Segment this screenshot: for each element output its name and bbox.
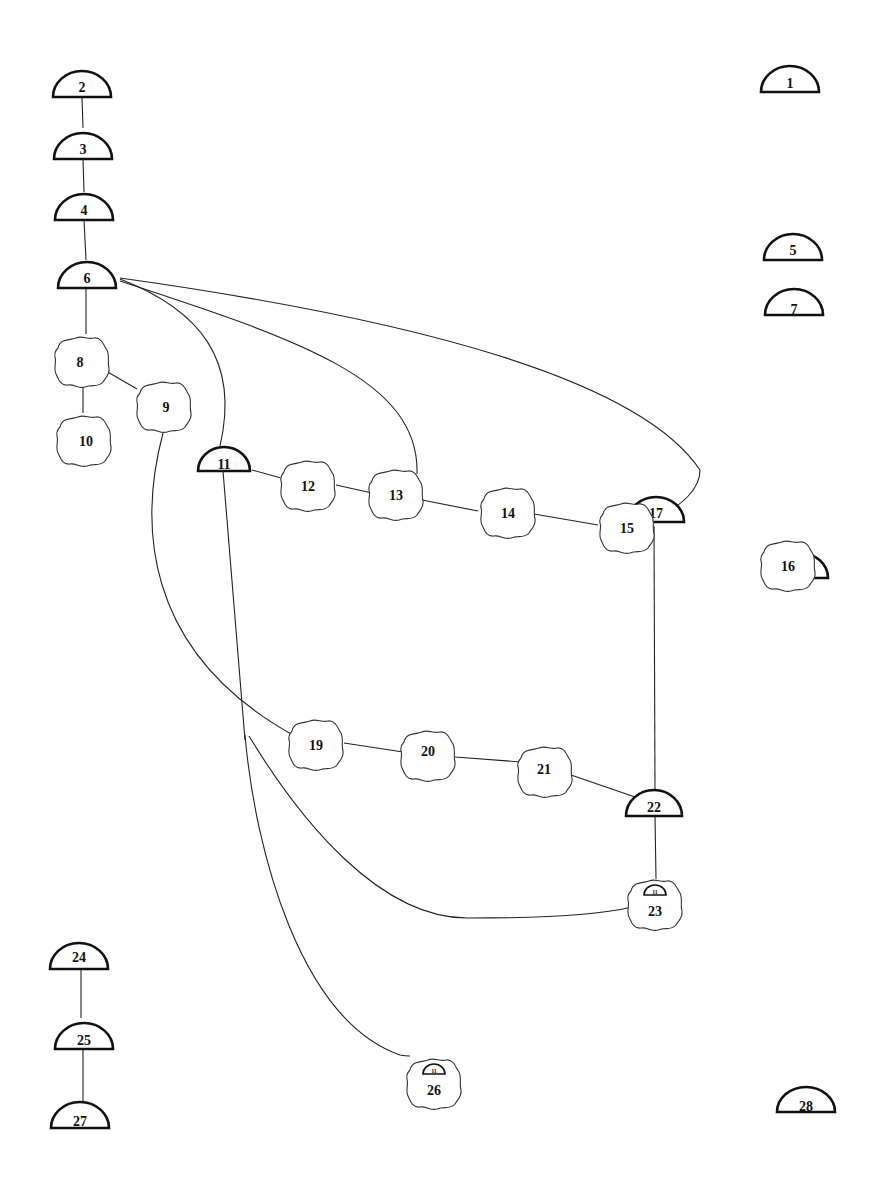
node-12[interactable]: 12 — [281, 461, 335, 511]
node-2[interactable]: 2 — [53, 71, 111, 97]
node-24-label: 24 — [72, 950, 86, 965]
node-6[interactable]: 6 — [58, 262, 116, 288]
node-7[interactable]: 7 — [765, 289, 823, 317]
edge-21-22 — [571, 775, 635, 797]
node-20[interactable]: 20 — [401, 731, 455, 781]
node-14-label: 14 — [501, 506, 515, 521]
node-12-label: 12 — [301, 479, 315, 494]
node-16[interactable]: 16 — [761, 541, 815, 591]
node-10-label: 10 — [79, 434, 93, 449]
node-28[interactable]: 28 — [777, 1087, 835, 1114]
node-8-label: 8 — [77, 355, 84, 370]
node-25[interactable]: 25 — [55, 1023, 113, 1049]
node-2-label: 2 — [79, 80, 86, 95]
edge-3-4 — [83, 159, 84, 192]
node-9[interactable]: 9 — [137, 382, 191, 432]
node-26-label: 26 — [427, 1083, 441, 1098]
edge-9-19 — [152, 433, 293, 735]
node-14[interactable]: 14 — [481, 488, 535, 538]
edge-4-6 — [84, 220, 86, 260]
node-26[interactable]: 11 26 — [407, 1059, 461, 1109]
node-11[interactable]: 11 — [198, 447, 250, 472]
node-3-label: 3 — [80, 142, 87, 157]
node-4-label: 4 — [81, 203, 88, 218]
half-dome-node-layer: 1 2 3 4 5 6 7 11 — [50, 66, 835, 1129]
node-15[interactable]: 15 — [600, 503, 654, 553]
node-7-label: 7 — [791, 302, 798, 317]
node-27[interactable]: 27 — [51, 1102, 109, 1129]
node-16-label: 16 — [781, 559, 795, 574]
edge-11-26 — [245, 735, 410, 1056]
node-10[interactable]: 10 — [57, 416, 111, 466]
node-25-label: 25 — [77, 1033, 91, 1048]
node-6-label: 6 — [84, 271, 91, 286]
node-9-label: 9 — [163, 400, 170, 415]
node-23[interactable]: 11 23 — [628, 880, 682, 930]
edge-layer — [81, 97, 700, 1101]
edge-12-13 — [336, 485, 372, 493]
edge-6-13 — [120, 281, 417, 474]
node-20-label: 20 — [421, 744, 435, 759]
edge-17-22 — [654, 526, 655, 790]
edge-11-12 — [252, 470, 281, 478]
node-1-label: 1 — [787, 76, 794, 91]
node-27-label: 27 — [73, 1114, 87, 1129]
node-21[interactable]: 21 — [518, 747, 572, 797]
node-19[interactable]: 19 — [289, 720, 343, 770]
edge-2-3 — [82, 97, 83, 128]
node-15-label: 15 — [620, 521, 634, 536]
node-22[interactable]: 22 — [626, 790, 682, 816]
node-23-inner-label: 11 — [652, 889, 658, 895]
diagram-canvas: 1 2 3 4 5 6 7 11 — [0, 0, 884, 1188]
edge-22-23 — [655, 816, 656, 879]
node-24[interactable]: 24 — [50, 943, 108, 969]
node-11-label: 11 — [217, 457, 230, 472]
edge-13-14 — [422, 500, 478, 511]
cloud-node-layer: 8 9 10 12 13 14 15 16 — [55, 337, 815, 1109]
node-3[interactable]: 3 — [54, 133, 112, 159]
node-22-label: 22 — [647, 800, 661, 815]
node-13-label: 13 — [389, 488, 403, 503]
node-5[interactable]: 5 — [764, 234, 822, 260]
node-8[interactable]: 8 — [55, 337, 109, 387]
node-19-label: 19 — [309, 738, 323, 753]
node-23-label: 23 — [648, 904, 662, 919]
node-1[interactable]: 1 — [761, 66, 819, 92]
edge-19-20 — [344, 743, 403, 752]
edge-11-trunk — [223, 471, 245, 740]
edge-8-9 — [106, 371, 137, 389]
node-4[interactable]: 4 — [55, 194, 113, 220]
edge-14-15 — [534, 514, 598, 525]
node-28-label: 28 — [799, 1099, 813, 1114]
node-21-label: 21 — [537, 762, 551, 777]
node-26-inner-label: 11 — [431, 1068, 437, 1074]
edge-20-21 — [455, 757, 521, 762]
node-13[interactable]: 13 — [369, 470, 423, 520]
node-5-label: 5 — [790, 243, 797, 258]
